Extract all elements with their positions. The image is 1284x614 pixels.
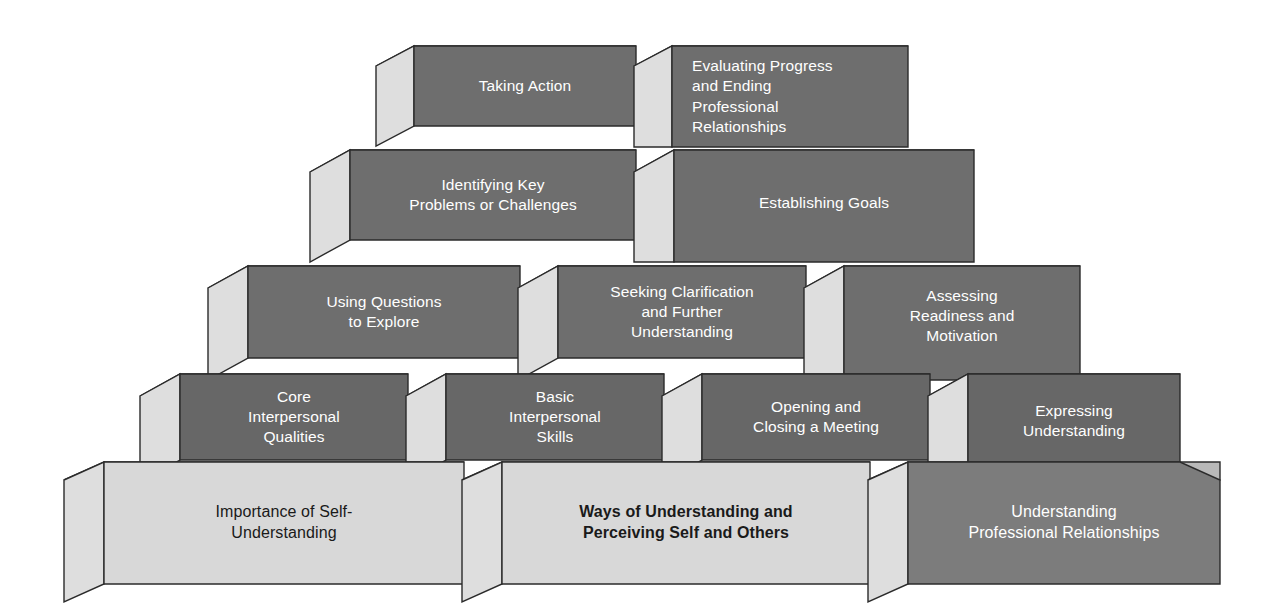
block-evaluating-progress[interactable]: Evaluating Progress and Ending Professio… [634, 46, 908, 146]
block-understanding-professional-relationships[interactable]: Understanding Professional Relationships [868, 462, 1220, 602]
block-establishing-goals[interactable]: Establishing Goals [634, 150, 974, 262]
block-importance-of-self-understanding[interactable]: Importance of Self- Understanding [64, 462, 464, 602]
block-label: Assessing Readiness and Motivation [844, 266, 1080, 366]
block-label: Opening and Closing a Meeting [702, 374, 930, 460]
block-using-questions[interactable]: Using Questions to Explore [208, 266, 520, 380]
block-label: Taking Action [414, 46, 636, 126]
block-label: Importance of Self- Understanding [104, 462, 464, 584]
block-label: Ways of Understanding and Perceiving Sel… [502, 462, 870, 584]
block-label: Identifying Key Problems or Challenges [350, 150, 636, 240]
block-label: Evaluating Progress and Ending Professio… [682, 46, 908, 147]
block-identifying-key-problems[interactable]: Identifying Key Problems or Challenges [310, 150, 636, 262]
block-label: Basic Interpersonal Skills [446, 374, 664, 460]
block-label: Core Interpersonal Qualities [180, 374, 408, 460]
block-label: Using Questions to Explore [248, 266, 520, 358]
block-assessing-readiness[interactable]: Assessing Readiness and Motivation [804, 266, 1080, 380]
block-label: Seeking Clarification and Further Unders… [558, 266, 806, 358]
block-label: Establishing Goals [674, 150, 974, 256]
block-label: Understanding Professional Relationships [908, 462, 1220, 584]
pyramid-diagram: Taking Action Evaluating Progress and En… [0, 0, 1284, 614]
block-label: Expressing Understanding [968, 374, 1180, 468]
block-seeking-clarification[interactable]: Seeking Clarification and Further Unders… [518, 266, 806, 380]
block-ways-of-understanding[interactable]: Ways of Understanding and Perceiving Sel… [462, 462, 870, 602]
block-taking-action[interactable]: Taking Action [376, 46, 636, 146]
